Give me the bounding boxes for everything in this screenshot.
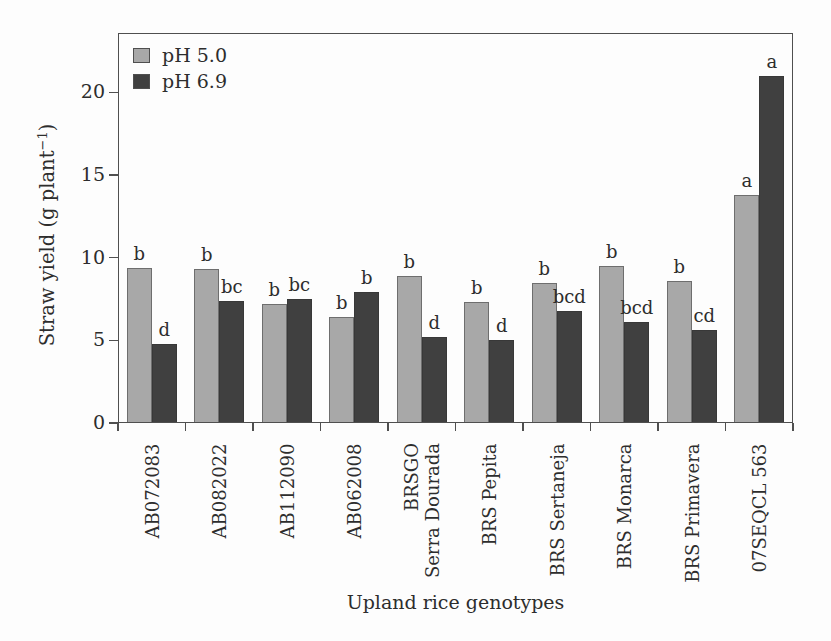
sig-letter: d [404,313,464,333]
bar-ph5.0-brs-primavera [667,281,692,423]
y-tick-label: 5 [65,328,105,351]
y-tick-label: 20 [65,80,105,103]
y-axis-title: Straw yield (g plant−1) [35,75,61,395]
x-category-label: 07SEQCL 563 [749,443,770,593]
bar-ph5.0-07seqcl-563 [734,195,759,423]
y-axis-title-superscript: −1 [35,131,50,150]
x-axis-title: Upland rice genotypes [118,591,793,613]
sig-letter: b [582,242,642,262]
y-tick-mark [109,340,118,342]
bar-ph5.0-ab062008 [329,317,354,423]
sig-letter: bc [202,277,262,297]
x-tick-mark [117,423,119,431]
bar-ph5.0-brsgo [397,276,422,423]
y-tick-label: 0 [65,411,105,434]
sig-letter: b [514,259,574,279]
sig-letter: bcd [607,298,667,318]
bar-ph6.9-brs-primavera [692,330,717,423]
x-tick-mark [725,423,727,431]
y-axis-title-suffix: ) [36,124,59,132]
x-tick-mark [590,423,592,431]
legend-label: pH 5.0 [162,45,227,66]
sig-letter: cd [674,306,734,326]
bar-ph5.0-ab072083 [127,268,152,423]
y-tick-label: 10 [65,246,105,269]
legend-row: pH 6.9 [133,71,227,92]
x-tick-mark [522,423,524,431]
bar-ph6.9-ab072083 [152,344,177,423]
sig-letter: d [134,320,194,340]
bar-ph6.9-brsgo [422,337,447,423]
x-category-label: BRS Primavera [681,443,702,593]
bar-ph5.0-brs-monarca [599,266,624,423]
y-tick-mark [109,257,118,259]
x-tick-mark [387,423,389,431]
bar-ph6.9-07seqcl-563 [759,76,784,423]
sig-letter: b [337,268,397,288]
sig-letter: b [447,278,507,298]
x-category-label: BRS Monarca [614,443,635,593]
legend-label: pH 6.9 [162,71,227,92]
bar-ph6.9-ab112090 [287,299,312,423]
bar-ph6.9-brs-pepita [489,340,514,423]
legend: pH 5.0pH 6.9 [133,45,227,97]
sig-letter: a [717,171,777,191]
legend-row: pH 5.0 [133,45,227,66]
x-tick-mark [455,423,457,431]
sig-letter: bcd [539,287,599,307]
legend-swatch-ph50 [133,48,150,63]
x-category-label: BRS Pepita [479,443,500,593]
x-tick-mark [320,423,322,431]
x-category-label: AB112090 [276,443,297,593]
x-category-label: AB082022 [209,443,230,593]
sig-letter: bc [269,275,329,295]
sig-letter: a [742,52,802,72]
sig-letter: b [312,293,372,313]
sig-letter: b [177,245,237,265]
x-category-label: AB062008 [344,443,365,593]
bar-ph6.9-brs-monarca [624,322,649,423]
y-tick-mark [109,92,118,94]
x-category-label: AB072083 [141,443,162,593]
x-category-label: BRS Sertaneja [546,443,567,593]
bar-chart-figure: bbbbbbbbbadbcbcbddbcdbcdcda 05101520AB07… [0,0,831,641]
y-tick-label: 15 [65,163,105,186]
x-tick-mark [252,423,254,431]
x-tick-mark [185,423,187,431]
bar-ph6.9-ab082022 [219,301,244,423]
bar-ph6.9-brs-sertaneja [557,311,582,423]
bar-ph5.0-ab112090 [262,304,287,423]
sig-letter: b [649,257,709,277]
sig-letter: b [109,244,169,264]
x-tick-mark [792,423,794,431]
y-axis-title-text: Straw yield (g plant [36,151,59,347]
legend-swatch-ph69 [133,74,150,89]
y-tick-mark [109,174,118,176]
sig-letter: d [472,316,532,336]
x-category-label: BRSGO Serra Dourada [401,443,443,593]
x-tick-mark [657,423,659,431]
